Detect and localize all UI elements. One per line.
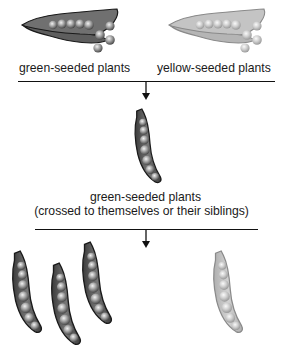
f1-label-line1: green-seeded plants <box>0 190 283 204</box>
f1-green-pod-icon <box>132 109 164 185</box>
f2-green-pod-icon <box>79 242 115 326</box>
arrow-down-icon <box>141 230 151 249</box>
arrow-down-icon <box>141 82 151 101</box>
f2-green-pod-icon <box>9 251 45 335</box>
f2-yellow-pod-icon <box>210 251 246 335</box>
parent-green-label: green-seeded plants <box>19 61 130 75</box>
yellow-open-pod-icon <box>167 6 267 56</box>
green-open-pod-icon <box>20 6 120 56</box>
parent-yellow-label: yellow-seeded plants <box>157 61 271 75</box>
f1-label-line2: (crossed to themselves or their siblings… <box>0 204 283 218</box>
